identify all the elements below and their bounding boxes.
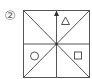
grid-diagram bbox=[0, 0, 92, 79]
center-point bbox=[55, 43, 58, 46]
triangle-icon bbox=[62, 17, 70, 25]
square-icon bbox=[75, 52, 82, 59]
arrow-up-icon bbox=[54, 11, 59, 17]
circle-icon bbox=[31, 52, 39, 60]
